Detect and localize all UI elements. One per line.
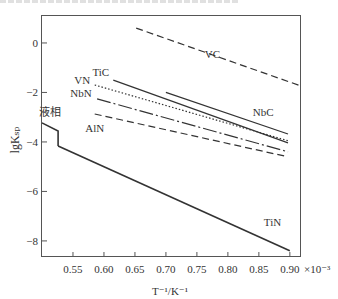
series-label-VN: VN [74, 74, 90, 86]
svg-text:lgKₛₚ: lgKₛₚ [8, 126, 22, 153]
svg-text:−8: −8 [26, 235, 38, 247]
svg-text:0.80: 0.80 [218, 263, 238, 275]
svg-text:−2: −2 [26, 86, 38, 98]
series-labels: VCTiCNbCVNNbNAlN液相TiN [39, 48, 281, 228]
series-line-AlN [95, 114, 288, 157]
series-label-NbC: NbC [253, 106, 274, 118]
x-axis-label: T⁻¹/K⁻¹ [152, 285, 188, 297]
y-axis-label: lgKₛₚ [8, 126, 22, 153]
series-label-TiN: TiN [264, 216, 281, 228]
svg-text:0.90: 0.90 [280, 263, 300, 275]
chart: 0.550.600.650.700.750.800.850.90 0−2−4−6… [0, 0, 338, 299]
x-axis-ticks: 0.550.600.650.700.750.800.850.90 [63, 252, 300, 275]
y-axis-ticks: 0−2−4−6−8 [26, 37, 47, 247]
svg-text:0.75: 0.75 [187, 263, 207, 275]
series-line-液相 [42, 123, 58, 146]
svg-text:−6: −6 [26, 185, 38, 197]
plot-frame [42, 16, 301, 257]
svg-text:0.85: 0.85 [249, 263, 269, 275]
series-label-AlN: AlN [85, 122, 104, 134]
data-series [42, 28, 301, 251]
series-label-液相: 液相 [39, 105, 61, 118]
svg-text:0.55: 0.55 [63, 263, 83, 275]
x-axis-multiplier: ×10⁻³ [304, 263, 331, 275]
svg-text:0: 0 [33, 37, 39, 49]
series-label-NbN: NbN [70, 87, 91, 99]
svg-text:0.70: 0.70 [156, 263, 176, 275]
svg-text:0.60: 0.60 [94, 263, 114, 275]
series-line-TiN [58, 146, 290, 251]
svg-text:−4: −4 [26, 136, 38, 148]
series-label-TiC: TiC [92, 66, 109, 78]
series-label-VC: VC [205, 48, 220, 60]
svg-text:0.65: 0.65 [125, 263, 145, 275]
